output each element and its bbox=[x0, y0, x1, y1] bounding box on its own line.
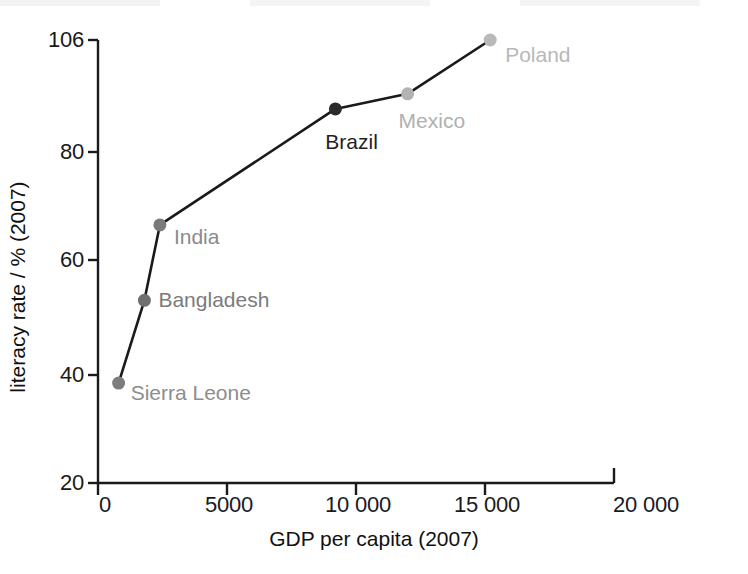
y-tick-label-60: 60 bbox=[28, 247, 84, 273]
data-point-bangladesh[interactable] bbox=[138, 294, 151, 307]
x-tick-label-5000: 5000 bbox=[205, 492, 253, 518]
data-point-brazil[interactable] bbox=[329, 102, 342, 115]
x-tick-label-20000: 20 000 bbox=[613, 492, 679, 518]
data-point-poland[interactable] bbox=[484, 34, 497, 47]
point-label-brazil: Brazil bbox=[325, 130, 378, 154]
point-label-india: India bbox=[174, 225, 220, 249]
y-axis-title: literacy rate / % (2007) bbox=[0, 0, 36, 574]
y-tick-label-40: 40 bbox=[28, 362, 84, 388]
x-tick-label-10000: 10 000 bbox=[325, 492, 391, 518]
point-label-bangladesh: Bangladesh bbox=[158, 288, 269, 312]
y-tick-label-106: 106 bbox=[28, 27, 84, 53]
y-tick-label-20: 20 bbox=[28, 470, 84, 496]
point-label-poland: Poland bbox=[505, 43, 570, 67]
data-point-mexico[interactable] bbox=[401, 87, 414, 100]
plot-area bbox=[0, 0, 748, 574]
x-tick-label-15000: 15 000 bbox=[454, 492, 520, 518]
point-label-mexico: Mexico bbox=[399, 109, 466, 133]
data-point-india[interactable] bbox=[153, 218, 166, 231]
data-line bbox=[119, 40, 491, 383]
data-point-sierra-leone[interactable] bbox=[112, 377, 125, 390]
x-axis-title: GDP per capita (2007) bbox=[0, 527, 748, 551]
chart-figure: 106 80 60 40 20 0 5000 10 000 15 000 20 … bbox=[0, 0, 748, 574]
y-tick-label-80: 80 bbox=[28, 139, 84, 165]
point-label-sierra-leone: Sierra Leone bbox=[131, 381, 251, 405]
x-tick-label-0: 0 bbox=[99, 492, 111, 518]
